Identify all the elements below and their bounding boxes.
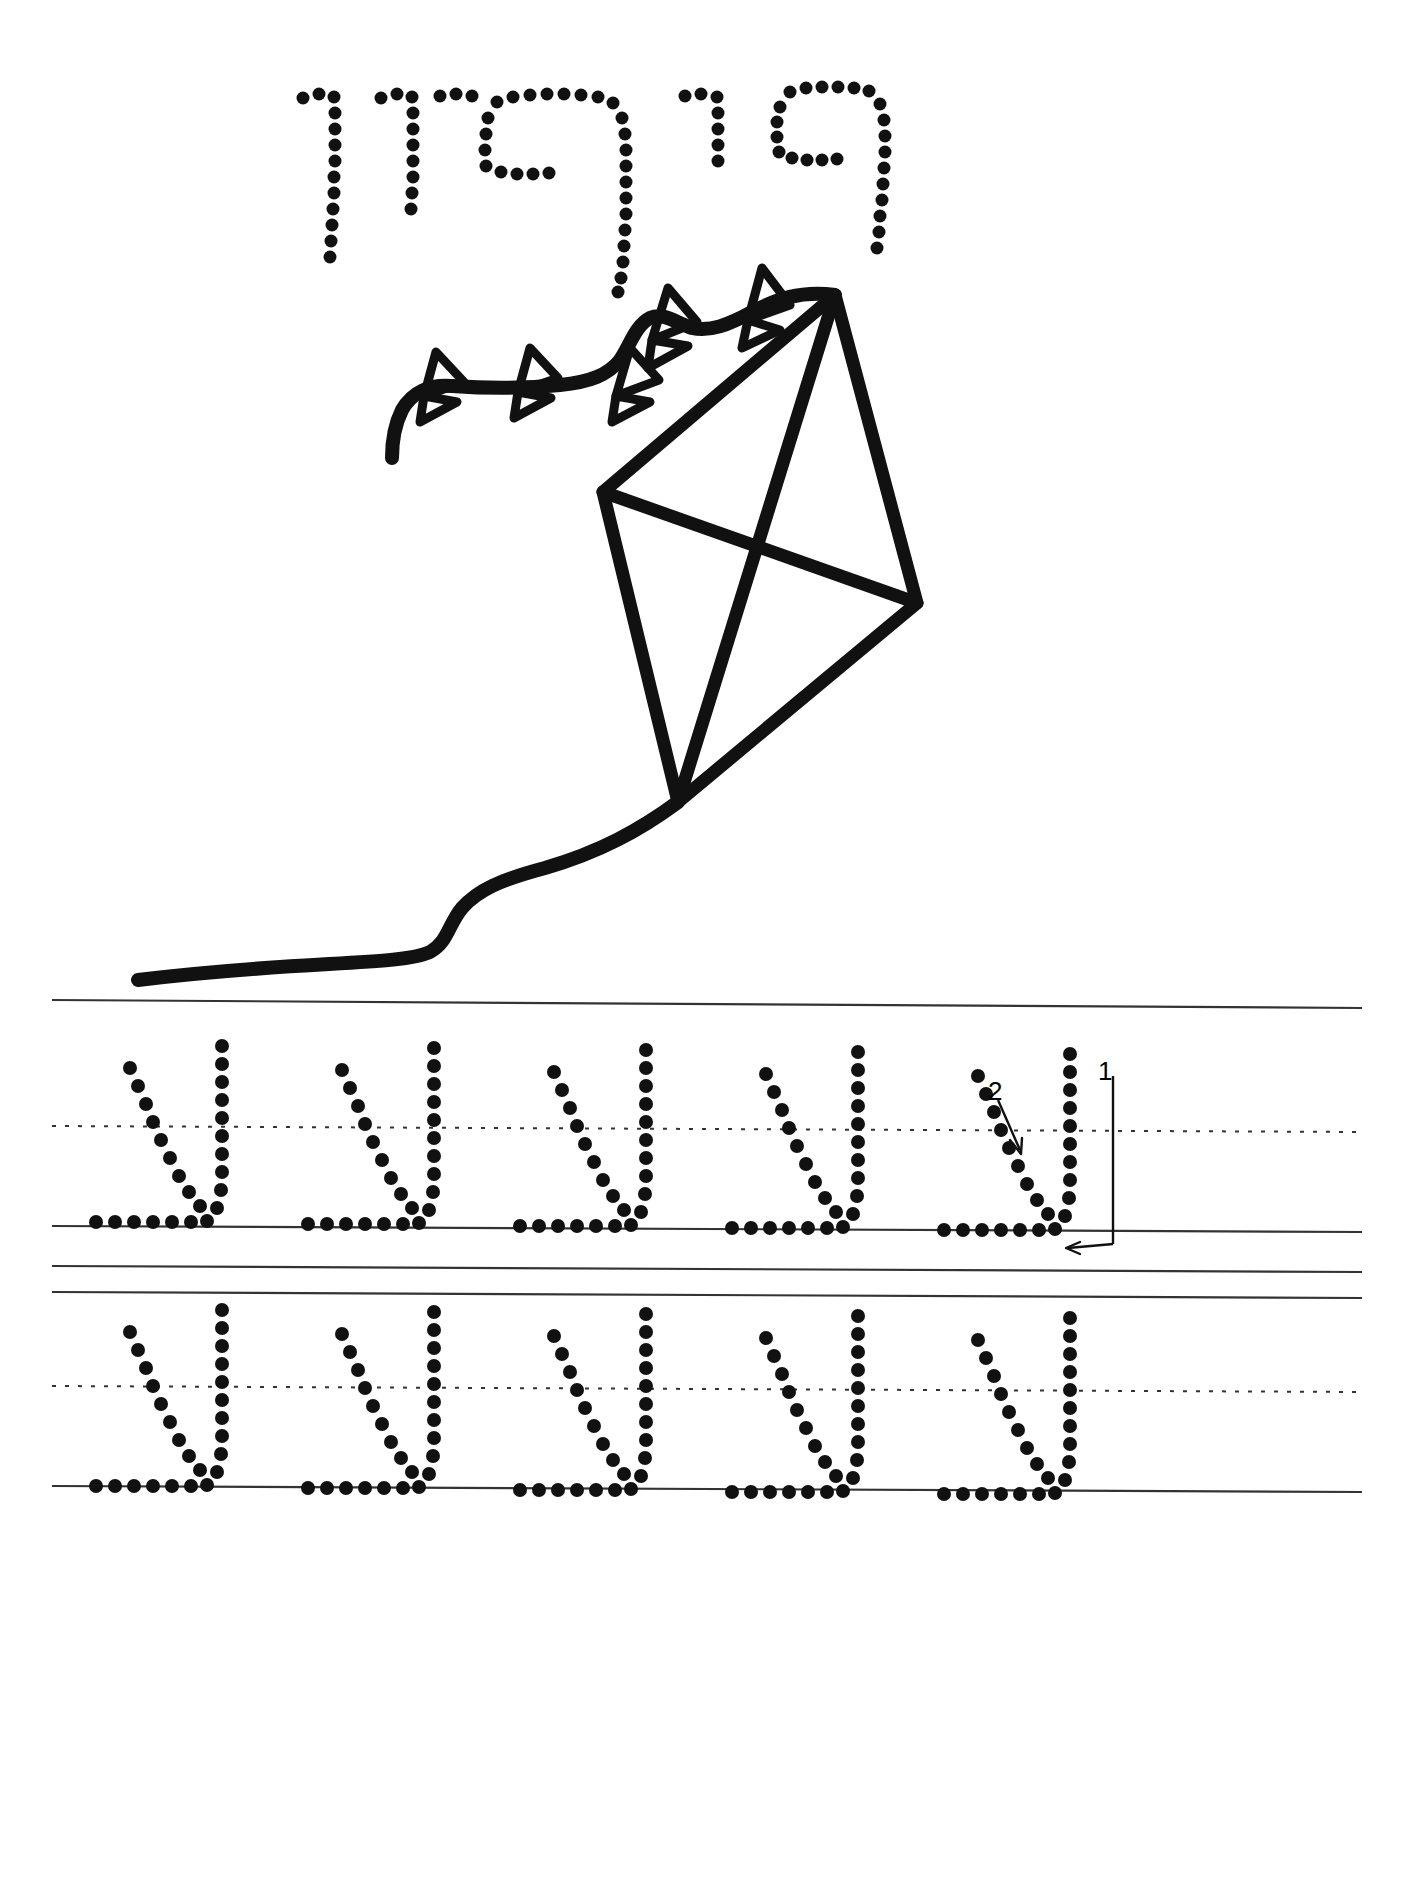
dotted-letter-ayin <box>725 1309 865 1499</box>
worksheet-page: 1 2 עפיפון ע kite ← <box>0 0 1414 1881</box>
stroke-number-1: 1 <box>1098 1058 1112 1084</box>
row2-mid-dashed-line <box>52 1386 1362 1392</box>
dotted-letter-ayin <box>89 1303 229 1493</box>
row1-bottom-line <box>52 1266 1362 1272</box>
dotted-letter-ayin <box>937 1311 1077 1501</box>
row1-top-line <box>52 1000 1362 1008</box>
dotted-letter-ayin <box>513 1043 653 1233</box>
row2-top-line <box>52 1292 1362 1298</box>
dotted-letter-ayin <box>725 1045 865 1235</box>
dotted-letter-ayin <box>513 1307 653 1497</box>
practice-area <box>0 0 1414 1881</box>
dotted-letter-ayin <box>89 1039 229 1229</box>
row1-dotted-letters <box>89 1039 1077 1237</box>
row2-base-line <box>52 1486 1362 1492</box>
row2-dotted-letters <box>89 1303 1077 1501</box>
dotted-letter-ayin <box>301 1041 441 1231</box>
stroke-number-2: 2 <box>988 1078 1002 1104</box>
row1-mid-dashed-line <box>52 1126 1362 1132</box>
dotted-letter-ayin <box>937 1047 1077 1237</box>
row1-base-line <box>52 1226 1362 1232</box>
dotted-letter-ayin <box>301 1305 441 1495</box>
